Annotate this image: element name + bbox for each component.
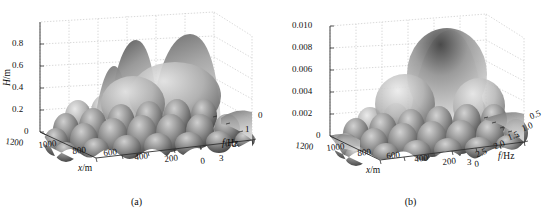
x-tick-label-b-3: 600 (386, 150, 400, 161)
z-tick-label-b-2: 0.004 (292, 86, 312, 96)
y-tick-label-a-1: 1 (245, 124, 250, 134)
x-tick-label-a-2: 800 (72, 145, 86, 156)
z-tick-label-b-3: 0.006 (292, 64, 312, 74)
x-tick-label-b-2: 800 (357, 147, 371, 158)
x-tick-label-a-0: 1200 (5, 136, 24, 148)
x-tick-label-a-5: 200 (164, 153, 178, 164)
z-tick-label-b-4: 0.008 (292, 42, 312, 52)
x-axis-title-a: x/m (78, 163, 92, 173)
y-axis-unit-a: /Hz (225, 138, 239, 148)
x-tick-label-a-4: 400 (134, 151, 148, 162)
x-tick-label-a-6: 0 (200, 156, 206, 166)
z-tick-label-b-0: 0 (316, 130, 321, 140)
x-axis-unit-a: /m (82, 163, 92, 173)
x-tick-label-a-1: 1000 (38, 138, 57, 150)
y-axis-title-b: f/Hz (498, 151, 514, 161)
x-axis-unit-b: /m (370, 165, 380, 175)
caption-b: (b) (274, 196, 547, 207)
z-tick-label-b-5: 0.010 (292, 20, 312, 30)
caption-a: (a) (0, 196, 273, 207)
figure-container: 0 0.2 0.4 0.6 0.8 H/m 1200 1000 800 600 … (0, 0, 547, 213)
z-tick-label-a-1: 0.2 (12, 104, 23, 114)
z-axis-unit-a: /m (2, 69, 12, 79)
panel-a: 0 0.2 0.4 0.6 0.8 H/m 1200 1000 800 600 … (0, 0, 273, 213)
z-tick-label-a-0: 0 (24, 126, 29, 136)
z-axis-title-a: H/m (2, 69, 12, 86)
y-tick-label-a-3: 3 (219, 153, 224, 163)
x-tick-label-b-4: 400 (414, 153, 428, 164)
x-tick-label-b-5: 200 (442, 156, 456, 167)
surface-plot-b (274, 0, 547, 213)
z-ticks-b (330, 26, 334, 136)
x-tick-label-a-3: 600 (103, 147, 117, 158)
y-tick-label-b-5: 3 (467, 157, 472, 167)
z-tick-label-a-4: 0.8 (12, 38, 23, 48)
z-tick-label-a-2: 0.4 (12, 82, 23, 92)
x-tick-label-b-1: 1000 (326, 141, 345, 153)
x-tick-label-b-0: 1200 (295, 140, 314, 152)
panel-b: 0 0.002 0.004 0.006 0.008 0.010 Q/(m3/s)… (274, 0, 547, 213)
x-axis-title-b: x/m (366, 165, 380, 175)
x-tick-label-b-6: 0 (474, 159, 480, 169)
surface-plot-a (0, 0, 273, 213)
y-axis-title-a: f/Hz (222, 138, 238, 148)
y-tick-label-a-0: 0 (258, 110, 263, 120)
z-axis-symbol-a: H (2, 79, 12, 86)
z-ticks-a (40, 44, 44, 132)
z-tick-label-a-3: 0.6 (12, 60, 23, 70)
y-axis-unit-b: /Hz (501, 151, 515, 161)
z-tick-label-b-1: 0.002 (292, 108, 312, 118)
